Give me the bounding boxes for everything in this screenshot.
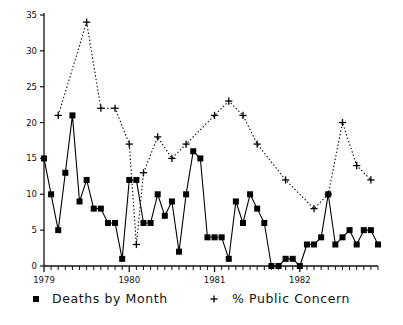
data-point-marker bbox=[318, 234, 324, 240]
data-point-marker bbox=[339, 234, 345, 240]
data-point-marker bbox=[84, 177, 90, 183]
data-point-marker bbox=[140, 220, 146, 226]
data-point-marker bbox=[240, 220, 246, 226]
data-point-marker bbox=[155, 191, 161, 197]
data-point-marker bbox=[48, 191, 54, 197]
y-axis-tick-label: 15 bbox=[26, 153, 37, 163]
y-axis-tick-label: 0 bbox=[32, 261, 37, 271]
data-point-marker bbox=[332, 241, 338, 247]
data-point-marker bbox=[276, 263, 282, 269]
data-point-marker bbox=[290, 256, 296, 262]
data-point-marker bbox=[283, 256, 289, 262]
data-point-marker bbox=[375, 241, 381, 247]
data-point-marker bbox=[119, 256, 125, 262]
data-point-marker bbox=[347, 227, 353, 233]
data-point-marker bbox=[148, 220, 154, 226]
legend-label: Deaths by Month bbox=[52, 291, 168, 306]
data-point-marker bbox=[268, 263, 274, 269]
data-point-marker bbox=[226, 256, 232, 262]
data-point-marker bbox=[62, 170, 68, 176]
data-point-marker bbox=[297, 263, 303, 269]
y-axis-tick-label: 10 bbox=[26, 189, 37, 199]
x-axis-tick-label: 1980 bbox=[118, 275, 140, 285]
data-point-marker bbox=[69, 112, 75, 118]
data-point-marker bbox=[311, 241, 317, 247]
data-point-marker bbox=[105, 220, 111, 226]
data-point-marker bbox=[212, 234, 218, 240]
data-point-marker bbox=[77, 198, 83, 204]
data-point-marker bbox=[98, 206, 104, 212]
legend-label: % Public Concern bbox=[232, 291, 350, 306]
data-point-marker bbox=[162, 213, 168, 219]
data-point-marker bbox=[169, 198, 175, 204]
data-point-marker bbox=[190, 148, 196, 154]
data-point-marker bbox=[183, 191, 189, 197]
data-point-marker bbox=[133, 177, 139, 183]
data-point-marker bbox=[219, 234, 225, 240]
data-point-marker bbox=[233, 198, 239, 204]
data-point-marker bbox=[197, 155, 203, 161]
deaths-and-concern-line-chart: 05101520253035 1979198019811982 Deaths b… bbox=[0, 0, 403, 325]
data-point-marker bbox=[91, 206, 97, 212]
data-point-marker bbox=[254, 206, 260, 212]
y-axis-tick-label: 35 bbox=[26, 10, 37, 20]
data-point-marker bbox=[304, 241, 310, 247]
x-axis-tick-label: 1981 bbox=[204, 275, 226, 285]
data-point-marker bbox=[247, 191, 253, 197]
data-point-marker bbox=[204, 234, 210, 240]
y-axis-tick-label: 30 bbox=[26, 46, 37, 56]
data-point-marker bbox=[261, 220, 267, 226]
x-axis-tick-label: 1979 bbox=[33, 275, 55, 285]
data-point-marker bbox=[368, 227, 374, 233]
data-point-marker bbox=[55, 227, 61, 233]
legend-marker-square bbox=[33, 296, 39, 302]
data-point-marker bbox=[354, 241, 360, 247]
x-axis-tick-label: 1982 bbox=[289, 275, 311, 285]
data-point-marker bbox=[41, 155, 47, 161]
chart-background bbox=[0, 0, 403, 325]
y-axis-tick-label: 20 bbox=[26, 118, 37, 128]
y-axis-tick-label: 25 bbox=[26, 82, 37, 92]
data-point-marker bbox=[176, 249, 182, 255]
data-point-marker bbox=[112, 220, 118, 226]
y-axis-tick-label: 5 bbox=[32, 225, 37, 235]
data-point-marker bbox=[361, 227, 367, 233]
chart-container: 05101520253035 1979198019811982 Deaths b… bbox=[0, 0, 403, 325]
